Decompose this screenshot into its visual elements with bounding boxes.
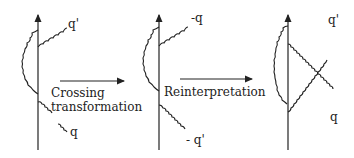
internal-photon-loop xyxy=(143,27,159,91)
panel-reinterpreted: q' q xyxy=(274,13,339,150)
reinterpretation-arrow: Reinterpretation xyxy=(164,79,266,99)
label-q: q xyxy=(70,125,78,139)
crossing-label-1: Crossing xyxy=(51,86,105,100)
photon-q-tail xyxy=(58,124,67,132)
panel-initial: q' q xyxy=(22,15,79,150)
photon-minus-q-prime xyxy=(159,105,185,129)
label-q: q xyxy=(330,110,338,124)
photon-minus-q xyxy=(159,27,188,46)
photon-q-prime xyxy=(38,28,67,47)
panel-crossed: -q - q' xyxy=(143,11,205,150)
reinterpretation-label: Reinterpretation xyxy=(164,85,266,99)
photon-q-prime-outgoing xyxy=(288,60,327,112)
internal-photon-loop xyxy=(274,26,288,104)
label-q-prime: q' xyxy=(68,17,79,31)
crossing-arrow: Crossing transformation xyxy=(51,81,142,114)
label-minus-q: -q xyxy=(191,11,203,25)
crossing-diagram: q' q Crossing transformation -q - q' Rei… xyxy=(0,0,354,158)
label-minus-q-prime: - q' xyxy=(186,133,205,147)
photon-q-outgoing xyxy=(288,44,333,89)
label-q-prime: q' xyxy=(328,13,339,27)
crossing-label-2: transformation xyxy=(51,100,142,114)
photon-q-stub xyxy=(38,102,52,113)
internal-photon-loop xyxy=(22,30,38,94)
